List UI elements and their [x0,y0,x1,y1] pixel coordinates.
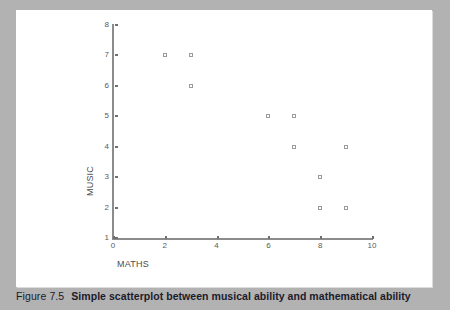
data-point [292,145,296,149]
x-tick-label: 10 [362,242,382,250]
y-tick-label: 3 [100,173,109,181]
figure-panel: 12345678 0246810 MUSIC MATHS [16,10,432,287]
x-tick [165,236,167,239]
y-tick [115,207,118,209]
x-tick-label: 6 [258,242,278,250]
y-tick-label: 6 [100,82,109,90]
data-point [318,175,322,179]
x-tick [320,236,322,239]
y-tick-label: 8 [100,21,109,29]
y-tick-label: 7 [100,51,109,59]
y-tick [115,24,118,26]
data-point [163,53,167,57]
y-tick [115,176,118,178]
x-tick [113,236,115,239]
data-point [344,206,348,210]
x-tick [372,236,374,239]
y-axis-line [112,24,114,239]
data-point [344,145,348,149]
data-point [318,206,322,210]
x-tick [268,236,270,239]
y-tick [115,146,118,148]
x-tick-label: 8 [310,242,330,250]
y-tick [115,54,118,56]
x-tick-label: 4 [207,242,227,250]
y-tick-label: 4 [100,143,109,151]
scatterplot: 12345678 0246810 MUSIC MATHS [16,10,432,287]
y-axis-title: MUSIC [85,166,95,196]
data-point [292,114,296,118]
y-tick-label: 5 [100,112,109,120]
data-point [189,84,193,88]
y-tick [115,85,118,87]
x-tick [217,236,219,239]
caption-text: Simple scatterplot between musical abili… [71,290,410,302]
y-tick [115,115,118,117]
y-tick-label: 1 [100,234,109,242]
data-point [189,53,193,57]
y-tick-label: 2 [100,204,109,212]
x-axis-title: MATHS [117,259,149,269]
figure-caption: Figure 7.5Simple scatterplot between mus… [16,289,446,303]
x-axis-line [112,238,373,240]
data-point [266,114,270,118]
y-tick [115,237,118,239]
x-tick-label: 2 [155,242,175,250]
x-tick-label: 0 [103,242,123,250]
figure-page: 12345678 0246810 MUSIC MATHS Figure 7.5S… [0,0,450,310]
caption-number: Figure 7.5 [16,290,64,302]
